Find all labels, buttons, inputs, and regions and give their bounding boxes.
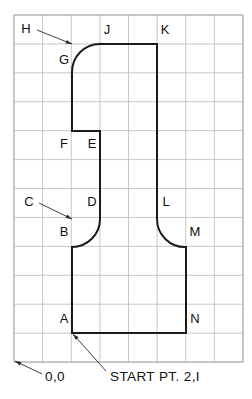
point-label-n: N [190, 311, 199, 326]
point-label-a: A [60, 311, 69, 326]
point-label-h: H [21, 21, 30, 36]
point-label-b: B [60, 224, 69, 239]
leader-start [73, 334, 106, 371]
drawing-svg: HJKGFECDLBMAN 0,0START PT. 2,I [0, 0, 252, 399]
start-point-note: START PT. 2,I [110, 369, 200, 384]
reference-grid [14, 15, 243, 362]
point-label-c: C [24, 194, 33, 209]
point-labels: HJKGFECDLBMAN [21, 21, 200, 326]
point-label-m: M [190, 224, 201, 239]
point-label-e: E [88, 136, 97, 151]
technical-drawing-canvas: HJKGFECDLBMAN 0,0START PT. 2,I [0, 0, 252, 399]
point-label-l: L [162, 194, 169, 209]
point-label-j: J [104, 22, 111, 37]
point-label-f: F [60, 136, 68, 151]
point-label-k: K [161, 22, 170, 37]
origin-note: 0,0 [45, 369, 65, 384]
annotation-notes: 0,0START PT. 2,I [45, 369, 200, 384]
point-label-d: D [87, 194, 96, 209]
point-label-g: G [59, 52, 69, 67]
